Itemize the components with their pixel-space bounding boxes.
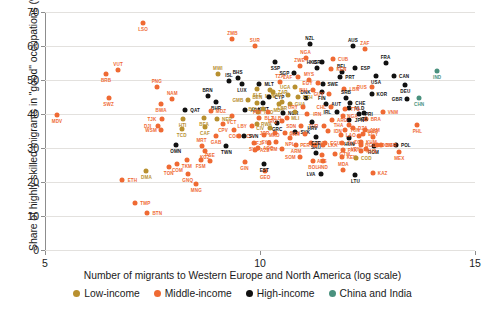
legend-item-mid[interactable]: Middle-income <box>154 288 232 299</box>
scatter-point <box>392 74 397 79</box>
point-label: VUT <box>113 62 123 67</box>
point-label: ZAF <box>360 41 369 46</box>
scatter-point <box>337 75 342 80</box>
point-label: MYS <box>304 71 314 76</box>
scatter-point <box>435 68 440 73</box>
scatter-point <box>325 129 330 134</box>
point-label: MEX <box>394 156 404 161</box>
scatter-point <box>335 109 340 114</box>
point-label: SVN <box>249 134 259 139</box>
point-label: ZMB <box>227 31 237 36</box>
point-label: MKD <box>269 133 280 138</box>
scatter-point <box>415 122 420 127</box>
point-label: DEU <box>400 89 410 94</box>
x-axis-title: Number of migrants to Western Europe and… <box>0 270 485 281</box>
legend-item-ci[interactable]: China and India <box>329 288 412 299</box>
scatter-point <box>369 92 374 97</box>
scatter-point <box>320 81 325 86</box>
legend-item-low[interactable]: Low-income <box>73 288 140 299</box>
point-label: LBR <box>277 106 287 111</box>
point-label: SDN <box>286 124 296 129</box>
scatter-point <box>230 37 235 42</box>
legend-item-high[interactable]: High-income <box>246 288 315 299</box>
scatter-point <box>159 117 164 122</box>
point-label: LBY <box>238 123 248 128</box>
point-label: GUY <box>314 91 324 96</box>
y-tick-mark <box>41 216 45 217</box>
point-label: TJK <box>147 117 156 122</box>
y-tick-mark <box>41 114 45 115</box>
point-label: MWI <box>213 65 223 70</box>
scatter-point <box>315 81 320 86</box>
point-label: LSO <box>138 26 148 31</box>
point-label: TCD <box>177 133 187 138</box>
point-label: BTN <box>152 210 162 215</box>
point-label: GAB <box>211 140 222 145</box>
y-tick-mark <box>41 182 45 183</box>
point-label: ETH <box>303 95 313 100</box>
y-tick-mark <box>41 80 45 81</box>
scatter-point <box>321 124 326 129</box>
scatter-point <box>313 134 318 139</box>
point-label: ETH <box>128 177 138 182</box>
point-label: GTM <box>340 152 351 157</box>
x-tick-mark <box>45 251 46 255</box>
scatter-point <box>362 47 367 52</box>
scatter-point <box>370 171 375 176</box>
scatter-point <box>313 151 318 156</box>
gridline <box>45 216 475 217</box>
scatter-point <box>346 122 351 127</box>
point-label: AUS <box>348 38 358 43</box>
point-label: VEN <box>351 147 361 152</box>
point-label: ESP <box>361 66 371 71</box>
point-label: ZAR <box>278 90 288 95</box>
point-label: HKG <box>307 60 318 65</box>
point-label: BGR <box>386 143 397 148</box>
point-label: GBR <box>392 97 403 102</box>
y-tick-mark <box>41 46 45 47</box>
scatter-point <box>214 134 219 139</box>
scatter-point <box>106 96 111 101</box>
point-label: WSM <box>145 127 157 132</box>
y-tick-label: 30 <box>27 142 39 154</box>
x-tick-label: 5 <box>42 257 48 269</box>
scatter-point <box>194 182 199 187</box>
scatter-point <box>397 150 402 155</box>
point-label: AFG <box>317 159 327 164</box>
scatter-point <box>305 112 310 117</box>
legend-swatch-icon <box>329 290 336 297</box>
legend-swatch-icon <box>154 290 161 297</box>
point-label: FIN <box>318 95 326 100</box>
y-tick-label: 20 <box>27 176 39 188</box>
scatter-point <box>338 133 343 138</box>
scatter-point <box>55 112 60 117</box>
scatter-point <box>383 61 388 66</box>
point-label: NAM <box>167 91 178 96</box>
scatter-point <box>205 93 210 98</box>
point-label: MLT <box>264 81 273 86</box>
x-tick-label: 15 <box>469 257 481 269</box>
legend-label: Low-income <box>84 288 140 299</box>
scatter-point <box>348 101 353 106</box>
point-label: EST <box>260 167 269 172</box>
scatter-point <box>280 100 285 105</box>
point-label: GRC <box>272 126 283 131</box>
point-label: FRA <box>381 55 391 60</box>
scatter-point <box>221 121 226 126</box>
point-label: NZL <box>305 36 314 41</box>
y-tick-label: 60 <box>27 40 39 52</box>
x-tick-mark <box>475 251 476 255</box>
point-label: MAR <box>367 129 378 134</box>
point-label: OMN <box>170 148 181 153</box>
point-label: IRL <box>324 109 332 114</box>
point-label: TON <box>164 171 174 176</box>
scatter-point <box>199 143 204 148</box>
point-label: GMB <box>232 97 243 102</box>
scatter-point <box>329 67 334 72</box>
scatter-point <box>302 131 307 136</box>
scatter-point <box>361 132 366 137</box>
point-label: BRN <box>202 87 212 92</box>
point-label: PRY <box>253 109 263 114</box>
scatter-point <box>280 118 285 123</box>
point-label: ISL <box>225 73 232 78</box>
